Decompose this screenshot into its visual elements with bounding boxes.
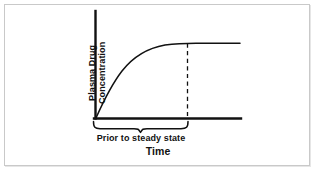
x-axis-label: Time bbox=[0, 145, 316, 157]
y-axis-label-text: Plasma Drug Concentration bbox=[87, 42, 107, 104]
prior-to-steady-state-brace bbox=[94, 122, 189, 133]
y-axis-label-line2: Concentration bbox=[97, 42, 107, 104]
concentration-curve bbox=[96, 43, 240, 118]
y-axis-label-line1: Plasma Drug bbox=[87, 42, 97, 104]
brace-caption-label: Prior to steady state bbox=[0, 133, 282, 143]
figure-root: Plasma Drug Concentration Prior to stead… bbox=[0, 0, 316, 172]
